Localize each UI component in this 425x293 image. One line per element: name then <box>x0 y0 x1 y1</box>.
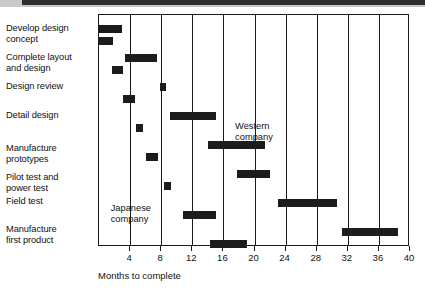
x-tick-16 <box>222 246 223 251</box>
x-axis-ticks <box>98 246 409 251</box>
x-tick-20 <box>254 246 255 251</box>
bar-task-6-japanese <box>278 199 337 207</box>
task-label-0: Develop designconcept <box>6 23 98 44</box>
annotation-western-company: Western company <box>235 121 273 143</box>
gridline-month-8 <box>161 15 162 245</box>
x-tick-label-8: 8 <box>158 252 163 263</box>
bar-task-1-western <box>112 66 123 74</box>
gantt-chart-figure: Develop designconceptComplete layoutand … <box>0 0 425 293</box>
x-axis-tick-labels: 481216202428323640 <box>98 252 409 265</box>
task-label-4-line1: Manufacture <box>6 143 98 154</box>
x-tick-32 <box>347 246 348 251</box>
plot-area: Western company Japanese company <box>98 14 409 246</box>
bar-task-2-western <box>123 95 135 103</box>
x-tick-label-4: 4 <box>126 252 131 263</box>
x-tick-label-32: 32 <box>342 252 353 263</box>
task-label-1-line2: and design <box>6 63 98 74</box>
x-tick-label-36: 36 <box>373 252 384 263</box>
bar-task-0-japanese <box>99 25 122 33</box>
x-tick-24 <box>285 246 286 251</box>
annotation-western-line1: Western <box>235 121 273 132</box>
task-label-0-line2: concept <box>6 34 98 45</box>
scan-artifact-strip <box>0 0 425 7</box>
task-label-6-line1: Field test <box>6 196 98 207</box>
x-tick-label-20: 20 <box>248 252 259 263</box>
task-label-3-line1: Detail design <box>6 110 98 121</box>
annotation-japanese-line2: company <box>111 214 151 225</box>
task-label-5-line2: power test <box>6 183 98 194</box>
task-label-6: Field test <box>6 196 98 207</box>
x-axis-title: Months to complete <box>98 270 181 281</box>
gridline-month-28 <box>317 15 318 245</box>
gridline-month-16 <box>223 15 224 245</box>
gridline-month-32 <box>348 15 349 245</box>
task-label-7: Manufacturefirst product <box>6 224 98 245</box>
bar-task-5-western <box>164 182 171 190</box>
bar-task-1-japanese <box>125 54 157 62</box>
task-label-0-line1: Develop design <box>6 23 98 34</box>
x-tick-28 <box>316 246 317 251</box>
task-label-1-line1: Complete layout <box>6 52 98 63</box>
bar-task-0-western <box>99 37 113 45</box>
x-tick-label-16: 16 <box>217 252 228 263</box>
bar-task-3-western <box>136 124 142 132</box>
x-tick-4 <box>129 246 130 251</box>
scan-artifact-bar <box>22 0 425 5</box>
task-label-1: Complete layoutand design <box>6 52 98 73</box>
task-label-4-line2: prototypes <box>6 154 98 165</box>
task-label-3: Detail design <box>6 110 98 121</box>
task-label-5: Pilot test andpower test <box>6 172 98 193</box>
task-label-7-line2: first product <box>6 235 98 246</box>
task-label-5-line1: Pilot test and <box>6 172 98 183</box>
task-label-4: Manufactureprototypes <box>6 143 98 164</box>
x-tick-12 <box>191 246 192 251</box>
annotation-western-line2: company <box>235 132 273 143</box>
x-tick-label-24: 24 <box>279 252 290 263</box>
x-tick-label-12: 12 <box>186 252 197 263</box>
gridline-month-24 <box>286 15 287 245</box>
x-tick-40 <box>409 246 410 251</box>
task-label-column: Develop designconceptComplete layoutand … <box>6 14 96 246</box>
bar-task-3-japanese <box>170 112 216 120</box>
task-label-2-line1: Design review <box>6 81 98 92</box>
x-tick-label-28: 28 <box>310 252 321 263</box>
bar-task-5-japanese <box>237 170 270 178</box>
bar-task-6-western <box>183 211 216 219</box>
annotation-japanese-company: Japanese company <box>111 203 151 225</box>
task-label-2: Design review <box>6 81 98 92</box>
bar-task-7-japanese <box>342 228 397 236</box>
bar-task-2-japanese <box>160 83 166 91</box>
annotation-japanese-line1: Japanese <box>111 203 151 214</box>
task-label-7-line1: Manufacture <box>6 224 98 235</box>
gridline-month-36 <box>379 15 380 245</box>
x-tick-36 <box>378 246 379 251</box>
x-tick-label-40: 40 <box>404 252 415 263</box>
x-tick-8 <box>160 246 161 251</box>
bar-task-4-western <box>146 153 158 161</box>
